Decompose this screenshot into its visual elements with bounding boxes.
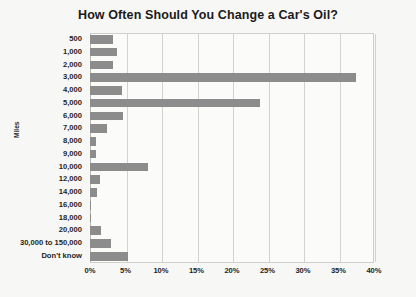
x-axis-tick-labels: 0%5%10%15%20%25%30%35%40% bbox=[90, 266, 374, 280]
bar-row bbox=[90, 224, 374, 237]
x-axis-tick-label: 35% bbox=[331, 266, 346, 275]
bar-row bbox=[90, 110, 374, 123]
x-axis-tick-label: 10% bbox=[153, 266, 168, 275]
y-axis-tick-label: 3,000 bbox=[0, 71, 86, 84]
y-axis-tick-label: 5,000 bbox=[0, 97, 86, 110]
x-axis-tick-label: 0% bbox=[85, 266, 96, 275]
bar-row bbox=[90, 199, 374, 212]
page-title: How Often Should You Change a Car's Oil? bbox=[0, 8, 416, 22]
bar-row bbox=[90, 250, 374, 263]
bar bbox=[90, 112, 123, 121]
bar bbox=[90, 175, 100, 184]
bar-row bbox=[90, 122, 374, 135]
bar bbox=[90, 201, 91, 210]
bar bbox=[90, 61, 113, 70]
bar-row bbox=[90, 33, 374, 46]
y-axis-tick-label: 14,000 bbox=[0, 186, 86, 199]
y-axis-tick-label: 2,000 bbox=[0, 59, 86, 72]
bar bbox=[90, 163, 148, 172]
bar-row bbox=[90, 84, 374, 97]
x-axis-tick-label: 15% bbox=[189, 266, 204, 275]
bar bbox=[90, 99, 260, 108]
y-axis-tick-label: 30,000 to 150,000 bbox=[0, 237, 86, 250]
y-axis-tick-label: 4,000 bbox=[0, 84, 86, 97]
bar-row bbox=[90, 186, 374, 199]
bar-row bbox=[90, 237, 374, 250]
y-axis-tick-label: 18,000 bbox=[0, 212, 86, 225]
bar bbox=[90, 35, 113, 44]
x-axis-tick-label: 30% bbox=[295, 266, 310, 275]
bar-row bbox=[90, 97, 374, 110]
y-axis-tick-label: 20,000 bbox=[0, 224, 86, 237]
y-axis-tick-label: Don't know bbox=[0, 250, 86, 263]
x-axis-tick-label: 5% bbox=[120, 266, 131, 275]
y-axis-tick-label: 16,000 bbox=[0, 199, 86, 212]
chart-page: How Often Should You Change a Car's Oil?… bbox=[0, 0, 416, 297]
bar bbox=[90, 214, 91, 223]
bar-row bbox=[90, 59, 374, 72]
y-axis-tick-labels: 5001,0002,0003,0004,0005,0006,0007,0008,… bbox=[0, 33, 86, 263]
bar-row bbox=[90, 173, 374, 186]
bar-row bbox=[90, 161, 374, 174]
bar-row bbox=[90, 135, 374, 148]
x-axis-tick-label: 40% bbox=[366, 266, 381, 275]
x-axis-tick-label: 25% bbox=[260, 266, 275, 275]
bar bbox=[90, 226, 101, 235]
bar-row bbox=[90, 212, 374, 225]
bar bbox=[90, 239, 111, 248]
bar bbox=[90, 124, 107, 133]
y-axis-tick-label: 10,000 bbox=[0, 161, 86, 174]
y-axis-tick-label: 1,000 bbox=[0, 46, 86, 59]
bars-layer bbox=[90, 33, 374, 263]
bar bbox=[90, 150, 96, 159]
bar bbox=[90, 48, 117, 57]
bar bbox=[90, 188, 97, 197]
bar bbox=[90, 137, 96, 146]
y-axis-tick-label: 500 bbox=[0, 33, 86, 46]
y-axis-title: Miles bbox=[13, 122, 20, 139]
bar bbox=[90, 73, 356, 82]
bar-row bbox=[90, 71, 374, 84]
bar bbox=[90, 252, 128, 261]
gridline bbox=[375, 34, 376, 262]
y-axis-tick-label: 12,000 bbox=[0, 173, 86, 186]
y-axis-tick-label: 9,000 bbox=[0, 148, 86, 161]
x-axis-tick-label: 20% bbox=[224, 266, 239, 275]
bar-row bbox=[90, 148, 374, 161]
bar bbox=[90, 86, 122, 95]
bar-row bbox=[90, 46, 374, 59]
